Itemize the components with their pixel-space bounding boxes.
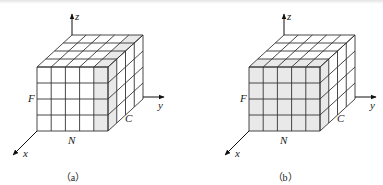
- figure-caption: （a）: [61, 172, 85, 183]
- face-label-n: N: [67, 134, 76, 146]
- figure-caption: （b）: [273, 172, 298, 183]
- face-label-c: C: [125, 112, 133, 124]
- figure-a: zyxFNC（a）: [13, 10, 164, 183]
- face-label-c: C: [337, 112, 345, 124]
- shaded-slice-top: [249, 59, 329, 67]
- face-label-f: F: [27, 92, 35, 104]
- y-axis-label: y: [369, 99, 375, 111]
- face-label-n: N: [279, 134, 288, 146]
- x-axis-label: x: [234, 147, 240, 159]
- z-axis-label: z: [74, 10, 80, 22]
- figure-b: zyxFNC（b）: [225, 10, 376, 183]
- cube-figures: zyxFNC（a） zyxFNC（b）: [0, 0, 383, 185]
- y-axis-label: y: [157, 99, 163, 111]
- x-axis-label: x: [22, 147, 28, 159]
- z-axis-label: z: [286, 10, 292, 22]
- face-label-f: F: [239, 92, 247, 104]
